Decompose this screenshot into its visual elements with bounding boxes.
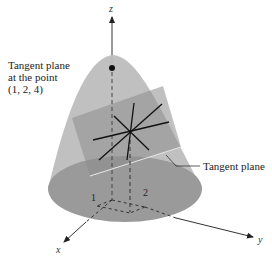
y-axis [176, 218, 253, 237]
x-axis [64, 222, 86, 242]
y-axis-label: y [258, 234, 262, 246]
point-marker [109, 65, 115, 71]
x-axis-label: x [56, 244, 60, 256]
x-tick-label: 1 [91, 192, 96, 204]
diagram-canvas [0, 0, 272, 263]
y-tick-label: 2 [143, 187, 148, 199]
point-annotation-line2: at the point [8, 71, 70, 83]
point-annotation-line3: (1, 2, 4) [8, 83, 70, 95]
point-annotation: Tangent plane at the point (1, 2, 4) [8, 59, 70, 95]
z-axis-label: z [109, 3, 113, 15]
plane-annotation: Tangent plane [203, 160, 265, 172]
point-annotation-line1: Tangent plane [8, 59, 70, 71]
